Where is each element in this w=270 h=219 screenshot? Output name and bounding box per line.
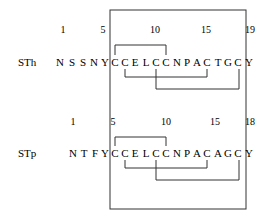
residue: C xyxy=(162,147,169,159)
position-number: 18 xyxy=(245,116,255,127)
residue: A xyxy=(214,147,222,159)
position-number: 19 xyxy=(245,24,255,35)
residue: Y xyxy=(101,56,109,68)
position-number: 10 xyxy=(161,116,171,127)
residue: Y xyxy=(245,147,253,159)
position-number: 1 xyxy=(71,116,76,127)
residue: N xyxy=(56,56,64,68)
bond-c6-c11 xyxy=(115,45,166,55)
position-number: 1 xyxy=(61,24,66,35)
residue: N xyxy=(173,147,181,159)
residue: N xyxy=(90,56,98,68)
residue: C xyxy=(203,147,210,159)
position-number: 5 xyxy=(101,24,106,35)
residue: C xyxy=(152,56,159,68)
residue: E xyxy=(132,147,139,159)
residue: C xyxy=(234,147,241,159)
position-number: 15 xyxy=(201,24,211,35)
residue: L xyxy=(143,147,150,159)
residue: S xyxy=(69,56,75,68)
row-label: STp xyxy=(18,147,37,159)
residue: C xyxy=(121,147,128,159)
toxic-domain-box xyxy=(110,10,246,209)
position-number: 5 xyxy=(111,116,116,127)
residue: E xyxy=(132,56,139,68)
residue: Y xyxy=(101,147,109,159)
residue: L xyxy=(143,56,150,68)
bond-c9-c17 xyxy=(156,160,239,180)
residue: P xyxy=(184,56,190,68)
residue: G xyxy=(224,147,232,159)
residue: A xyxy=(193,56,201,68)
residue: C xyxy=(121,56,128,68)
residue: G xyxy=(224,56,232,68)
row-stp: STp 15101518 NTFYCCELCCNPACAGCY xyxy=(18,116,255,180)
residue: S xyxy=(80,56,86,68)
residue: C xyxy=(203,56,210,68)
residue: A xyxy=(193,147,201,159)
residue: N xyxy=(69,147,77,159)
residue: Y xyxy=(245,56,253,68)
residue: F xyxy=(92,147,98,159)
position-number: 15 xyxy=(210,116,220,127)
residue: P xyxy=(184,147,190,159)
row-label: STh xyxy=(18,56,37,68)
bond-c6-c14 xyxy=(125,160,207,168)
residue: C xyxy=(111,147,118,159)
residue: T xyxy=(81,147,88,159)
residue: C xyxy=(152,147,159,159)
position-number: 10 xyxy=(150,24,160,35)
residue: C xyxy=(234,56,241,68)
bond-c5-c10 xyxy=(115,137,166,146)
residue: C xyxy=(111,56,118,68)
residue: T xyxy=(215,56,222,68)
row-sth: STh 15101519 NSSNYCCELCCNPACTGCY xyxy=(18,24,255,89)
bond-c10-c18 xyxy=(156,69,239,89)
residue: C xyxy=(162,56,169,68)
residue: N xyxy=(173,56,181,68)
disulfide-diagram: STh 15101519 NSSNYCCELCCNPACTGCY STp 151… xyxy=(0,0,270,219)
bond-c7-c15 xyxy=(125,69,207,77)
